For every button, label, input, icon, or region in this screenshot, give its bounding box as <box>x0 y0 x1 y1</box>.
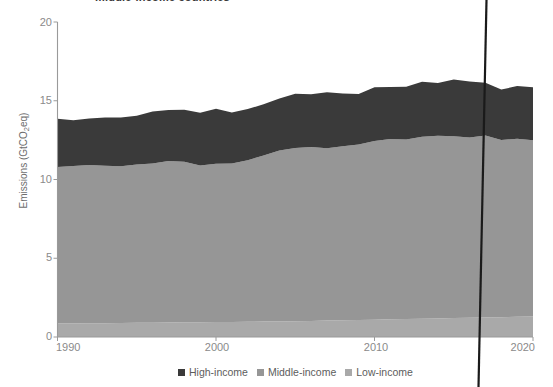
chart-figure: middle-income countries Emissions (GtCO2… <box>0 0 553 387</box>
page-edge-line <box>0 0 553 387</box>
